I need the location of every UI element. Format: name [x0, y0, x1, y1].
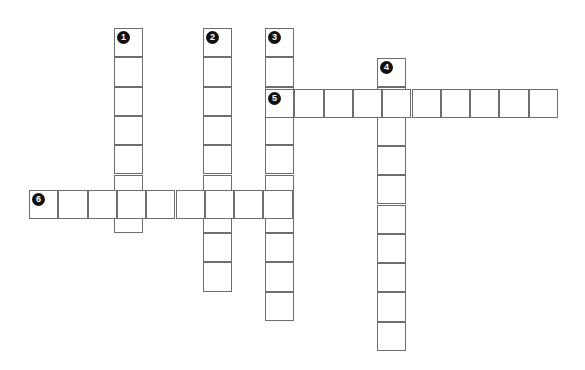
crossword-cell[interactable]	[499, 89, 528, 118]
clue-number-badge-1: 1	[117, 31, 130, 44]
crossword-cell[interactable]	[203, 87, 232, 116]
crossword-cell[interactable]	[114, 116, 143, 145]
crossword-cell[interactable]	[205, 190, 234, 219]
crossword-cell[interactable]	[203, 233, 232, 262]
crossword-cell[interactable]	[146, 190, 175, 219]
crossword-cell[interactable]	[377, 146, 406, 175]
crossword-cell[interactable]	[203, 116, 232, 145]
crossword-cell[interactable]	[114, 145, 143, 174]
crossword-grid: 123456	[0, 0, 585, 370]
crossword-cell[interactable]	[265, 292, 294, 321]
crossword-cell[interactable]	[58, 190, 87, 219]
crossword-cell[interactable]	[377, 117, 406, 146]
crossword-cell[interactable]	[529, 89, 558, 118]
crossword-cell[interactable]	[263, 190, 292, 219]
crossword-cell[interactable]	[265, 262, 294, 291]
crossword-cell[interactable]	[382, 89, 411, 118]
crossword-cell[interactable]	[88, 190, 117, 219]
crossword-cell[interactable]	[234, 190, 263, 219]
crossword-cell[interactable]	[377, 205, 406, 234]
crossword-cell[interactable]	[353, 89, 382, 118]
crossword-cell[interactable]	[203, 57, 232, 86]
crossword-cell[interactable]	[265, 233, 294, 262]
crossword-cell[interactable]	[114, 87, 143, 116]
crossword-cell[interactable]	[441, 89, 470, 118]
crossword-cell[interactable]	[412, 89, 441, 118]
clue-number-badge-5: 5	[268, 92, 281, 105]
crossword-cell[interactable]	[176, 190, 205, 219]
crossword-cell[interactable]	[117, 190, 146, 219]
clue-number-badge-4: 4	[380, 61, 393, 74]
crossword-cell[interactable]	[203, 262, 232, 291]
crossword-cell[interactable]	[265, 145, 294, 174]
crossword-cell[interactable]	[377, 175, 406, 204]
crossword-cell[interactable]	[377, 322, 406, 351]
crossword-cell[interactable]	[470, 89, 499, 118]
clue-number-badge-2: 2	[206, 31, 219, 44]
crossword-cell[interactable]	[265, 57, 294, 86]
crossword-cell[interactable]	[265, 116, 294, 145]
crossword-cell[interactable]	[324, 89, 353, 118]
crossword-cell[interactable]	[114, 57, 143, 86]
clue-number-badge-6: 6	[32, 193, 45, 206]
crossword-cell[interactable]	[377, 292, 406, 321]
crossword-cell[interactable]	[294, 89, 323, 118]
crossword-cell[interactable]	[377, 263, 406, 292]
crossword-cell[interactable]	[377, 234, 406, 263]
crossword-cell[interactable]	[203, 145, 232, 174]
clue-number-badge-3: 3	[268, 31, 281, 44]
